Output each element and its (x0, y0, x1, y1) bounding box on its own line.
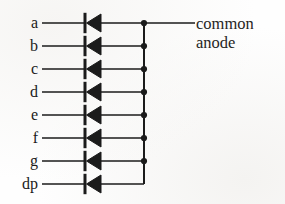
junction-dot-icon-segment-b (141, 43, 147, 49)
diode-layer (85, 13, 101, 194)
diode-icon-decimal-point (85, 174, 101, 194)
junction-dot-icon-segment-f (141, 135, 147, 141)
pin-label-segment-c: c (0, 61, 38, 77)
common-anode-bus (144, 23, 195, 184)
common-anode-label-line-2: anode (196, 33, 235, 52)
diode-icon-segment-a (85, 13, 101, 33)
diode-body (87, 14, 102, 32)
diode-body (87, 152, 102, 170)
pin-label-segment-d: d (0, 84, 38, 100)
junction-dot-icon-segment-e (141, 112, 147, 118)
junction-dot-icon-segment-a (141, 20, 147, 26)
junction-dot-icon-segment-c (141, 66, 147, 72)
junction-dot-icon-segment-g (141, 158, 147, 164)
pin-label-segment-f: f (0, 130, 38, 146)
diode-icon-segment-d (85, 82, 101, 102)
diode-body (87, 106, 102, 124)
pin-label-segment-a: a (0, 15, 38, 31)
diode-icon-segment-e (85, 105, 101, 125)
diode-icon-segment-g (85, 151, 101, 171)
diode-icon-segment-b (85, 36, 101, 56)
diode-icon-segment-f (85, 128, 101, 148)
diode-body (87, 175, 102, 193)
diode-body (87, 83, 102, 101)
diode-body (87, 60, 102, 78)
junction-dot-icon-segment-d (141, 89, 147, 95)
diode-body (87, 37, 102, 55)
schematic-canvas: abcdefgdp common anode (0, 0, 285, 204)
diode-body (87, 129, 102, 147)
diode-icon-segment-c (85, 59, 101, 79)
pin-label-decimal-point: dp (0, 176, 38, 192)
pin-label-segment-e: e (0, 107, 38, 123)
common-anode-label-line-1: common (196, 14, 254, 33)
pin-label-segment-b: b (0, 38, 38, 54)
pin-label-segment-g: g (0, 153, 38, 169)
